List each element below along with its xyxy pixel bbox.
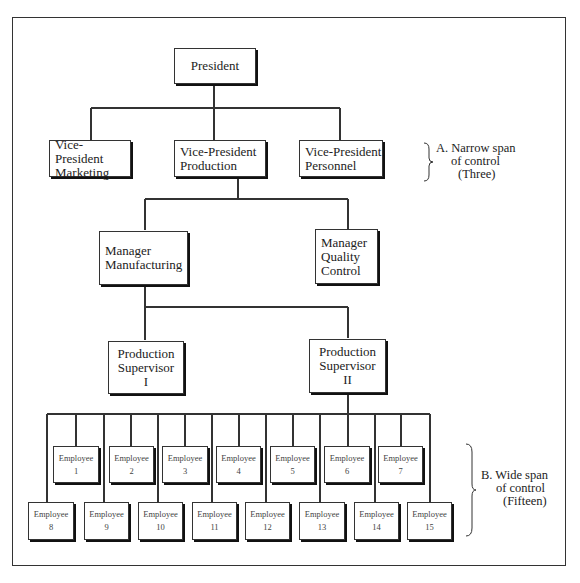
node-employee-4: Employee4 [216,446,261,483]
node-employee-3: Employee3 [162,446,208,483]
node-employee-2: Employee2 [109,446,154,483]
node-production-supervisor-1: Production Supervisor I [108,341,184,394]
node-employee-9: Employee9 [84,502,129,540]
node-employee-7: Employee7 [378,446,423,483]
node-employee-10: Employee10 [138,502,183,540]
node-president: President [174,48,256,84]
node-employee-11: Employee11 [192,502,237,540]
node-vp-marketing: Vice-President Marketing [49,140,131,177]
node-production-supervisor-2: Production Supervisor II [309,339,386,393]
node-employee-6: Employee6 [324,446,370,483]
brace-narrow [424,143,433,181]
node-employee-14: Employee14 [354,502,399,540]
node-employee-1: Employee1 [53,446,99,483]
node-employee-8: Employee8 [28,502,74,540]
node-employee-13: Employee13 [299,502,345,540]
node-employee-15: Employee15 [407,502,452,540]
node-manager-manufacturing: Manager Manufacturing [99,231,188,285]
node-employee-5: Employee5 [270,446,315,483]
annotation-wide-span: B. Wide span of control (Fifteen) [481,469,548,508]
annotation-narrow-span: A. Narrow span of control (Three) [436,142,516,181]
node-manager-quality-control: Manager Quality Control [315,229,378,284]
brace-wide [466,444,476,536]
node-employee-12: Employee12 [245,502,290,540]
node-vp-personnel: Vice-President Personnel [299,140,383,177]
node-vp-production: Vice-President Production [174,140,266,177]
